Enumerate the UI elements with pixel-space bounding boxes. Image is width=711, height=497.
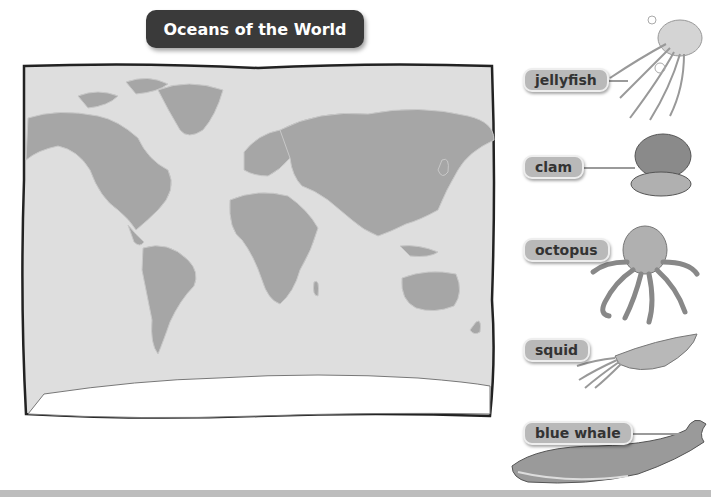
leader-line: [580, 167, 635, 169]
clam-icon: [625, 128, 695, 200]
label-blue-whale: blue whale: [523, 421, 633, 445]
label-clam: clam: [523, 155, 584, 179]
page-title: Oceans of the World: [146, 10, 364, 48]
squid-icon: [575, 330, 700, 390]
world-map: [18, 60, 498, 422]
jellyfish-icon: [600, 8, 710, 128]
label-jellyfish: jellyfish: [523, 68, 609, 92]
bottom-divider: [0, 490, 711, 497]
label-squid: squid: [523, 338, 590, 362]
label-octopus: octopus: [523, 238, 610, 262]
